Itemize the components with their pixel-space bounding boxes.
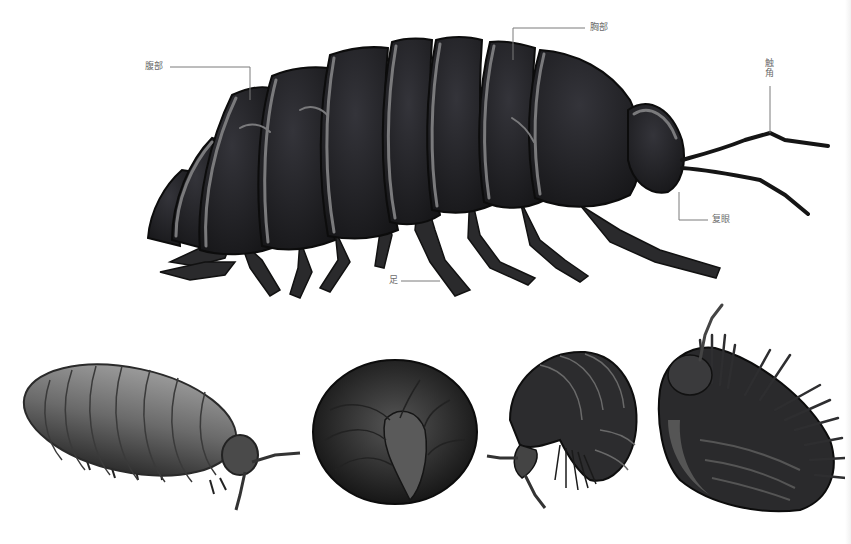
pose-underside-view — [659, 305, 846, 511]
pose-walking-side-view — [14, 347, 300, 510]
label-abdomen: 腹部 — [145, 62, 163, 71]
label-thorax: 胸部 — [590, 23, 608, 32]
pose-fully-rolled-ball — [313, 360, 477, 504]
pill-bug-illustration — [0, 0, 851, 544]
compound-eye-leader-line — [679, 192, 708, 220]
pose-half-rolled — [487, 352, 637, 508]
label-leg: 足 — [389, 276, 398, 285]
illustration-stage: 腹部 胸部 触角 复眼 足 — [0, 0, 851, 544]
label-compound-eye: 复眼 — [712, 215, 730, 224]
page-edge-shadow — [845, 0, 851, 544]
antennae — [682, 133, 828, 214]
label-antenna: 触角 — [764, 58, 773, 78]
